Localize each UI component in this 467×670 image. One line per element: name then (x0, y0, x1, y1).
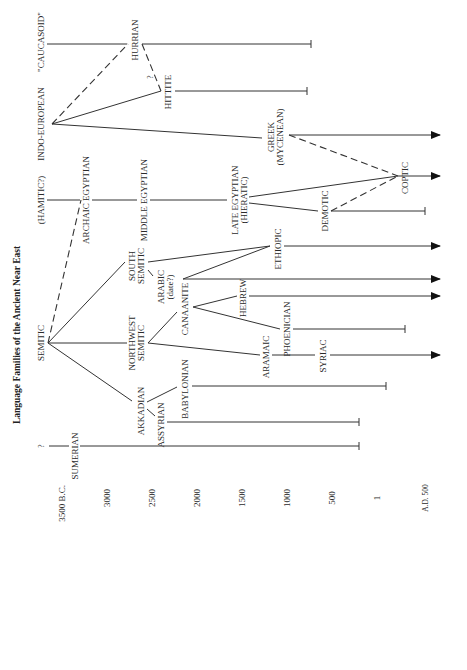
label-hurrian: HURRIAN (130, 19, 140, 61)
label-phoenician: PHOENICIAN (282, 301, 292, 356)
label-hittite-question: ? (146, 75, 155, 79)
label-indo-european: INDO-EUROPEAN (36, 87, 46, 161)
label-canaanite: CANAANITE (180, 282, 190, 335)
tick-1000: 1000 (282, 489, 292, 508)
tick-2000: 2000 (192, 489, 202, 508)
label-caucasoid: "CAUCASOID" (36, 12, 46, 72)
label-syriac: SYRIAC (318, 339, 328, 372)
tick-1500: 1500 (237, 489, 247, 508)
language-family-diagram: Language Families of the Ancient Near Ea… (0, 0, 467, 670)
time-axis: 3500 B.C. 3000 2500 2000 1500 1000 500 1… (57, 484, 430, 522)
label-hittite: HITTITE (163, 74, 173, 109)
tick-3000: 3000 (102, 489, 112, 508)
label-hebrew: HEBREW (238, 278, 248, 317)
label-sumerian-origin: ? (37, 444, 46, 448)
label-aramaic: ARAMAIC (261, 336, 271, 379)
label-assyrian: ASSYRIAN (156, 402, 166, 448)
tick-1: 1 (372, 496, 382, 501)
caucasoid-branch (47, 40, 311, 91)
tick-3500bc: 3500 B.C. (57, 485, 67, 522)
label-coptic: COPTIC (400, 162, 410, 194)
label-northwest-semitic-2: SEMITIC (136, 325, 146, 361)
label-semitic: SEMITIC (36, 325, 46, 361)
label-sumerian: SUMERIAN (70, 432, 80, 480)
label-middle-egyptian: MIDDLE EGYPTIAN (139, 158, 149, 241)
label-late-egyptian-hieratic: (HIERATIC) (239, 177, 249, 224)
label-archaic-egyptian: ARCHAIC EGYPTIAN (81, 156, 91, 244)
label-babylonian: BABYLONIAN (180, 359, 190, 419)
diagram-title: Language Families of the Ancient Near Ea… (12, 245, 22, 424)
label-south-semitic-2: SEMITIC (136, 248, 146, 284)
tick-500: 500 (327, 491, 337, 505)
greek-branch (52, 124, 440, 176)
tick-2500: 2500 (147, 489, 157, 508)
label-ethiopic: ETHIOPIC (273, 229, 283, 270)
sumerian-branch (49, 442, 359, 450)
label-hamitic: (HAMITIC?) (36, 176, 46, 225)
hittite-branch (52, 44, 307, 124)
label-arabic-date: (date?) (165, 275, 175, 300)
label-demotic: DEMOTIC (320, 191, 330, 232)
label-akkadian: AKKADIAN (136, 386, 146, 435)
label-greek-mycenean: (MYCENEAN) (275, 109, 285, 166)
tick-ad500: A.D. 500 (421, 484, 430, 512)
